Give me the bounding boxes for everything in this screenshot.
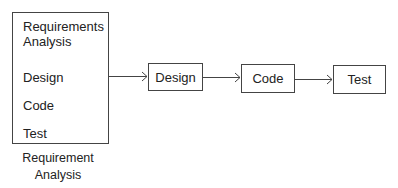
- flow-node-code-label: Code: [252, 71, 283, 86]
- flow-node-test-label: Test: [348, 72, 372, 87]
- flow-arrows: [0, 0, 398, 188]
- flow-node-design: Design: [148, 63, 203, 91]
- flow-node-design-label: Design: [155, 70, 195, 85]
- flow-node-code: Code: [241, 64, 295, 93]
- flow-node-test: Test: [333, 65, 386, 94]
